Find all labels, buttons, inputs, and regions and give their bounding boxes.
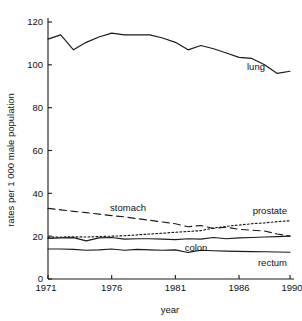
x-tick-label: 1971 — [35, 282, 56, 293]
y-axis: 020406080100120 — [27, 16, 52, 284]
x-tick-label: 1986 — [228, 282, 249, 293]
y-tick-label: 60 — [32, 145, 43, 156]
series-label-prostate: prostate — [253, 205, 287, 216]
y-tick-label: 40 — [32, 188, 43, 199]
y-axis-title: rates per 1 000 male population — [5, 93, 16, 227]
y-tick-label: 20 — [32, 231, 43, 242]
x-axis: 19711976198119861990 — [35, 275, 302, 293]
series-line-rectum — [48, 249, 290, 252]
x-tick-label: 1976 — [101, 282, 122, 293]
chart-figure: 020406080100120 19711976198119861990 lun… — [0, 0, 302, 321]
y-tick-label: 120 — [27, 16, 43, 27]
y-tick-label: 100 — [27, 59, 43, 70]
series-label-rectum: rectum — [258, 257, 287, 268]
series-label-stomach: stomach — [110, 202, 146, 213]
y-tick-label: 80 — [32, 102, 43, 113]
series-label-lung: lung — [247, 61, 265, 72]
chart-plot-area: 020406080100120 19711976198119861990 lun… — [0, 0, 302, 321]
x-tick-label: 1981 — [165, 282, 186, 293]
x-tick-label: 1990 — [281, 282, 302, 293]
x-axis-title: year — [161, 304, 179, 315]
series-label-colon: colon — [185, 242, 208, 253]
